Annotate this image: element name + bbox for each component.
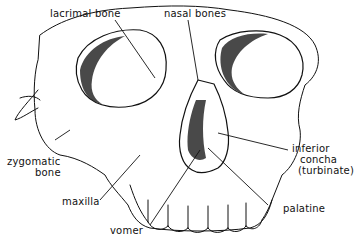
label-turbinate: (turbinate): [298, 165, 354, 176]
label-zygomatic: zygomatic: [7, 156, 61, 167]
leader-nasal: [188, 20, 198, 80]
label-lacrimal-bone: lacrimal bone: [50, 8, 121, 19]
label-concha: concha: [300, 154, 337, 165]
label-palatine: palatine: [283, 203, 325, 214]
teeth: [130, 185, 272, 233]
leader-vomer: [150, 150, 200, 225]
leader-palatine: [208, 148, 268, 205]
label-inferior: inferior: [292, 143, 330, 154]
tooth-lines: [148, 200, 246, 228]
label-maxilla: maxilla: [62, 196, 100, 207]
leader-lacrimal: [115, 20, 155, 78]
label-zygomatic-bone: bone: [35, 167, 61, 178]
label-vomer: vomer: [110, 225, 143, 236]
leader-zygomatic: [55, 130, 70, 140]
label-nasal-bones: nasal bones: [164, 8, 226, 19]
zygomatic-arch: [15, 90, 40, 120]
